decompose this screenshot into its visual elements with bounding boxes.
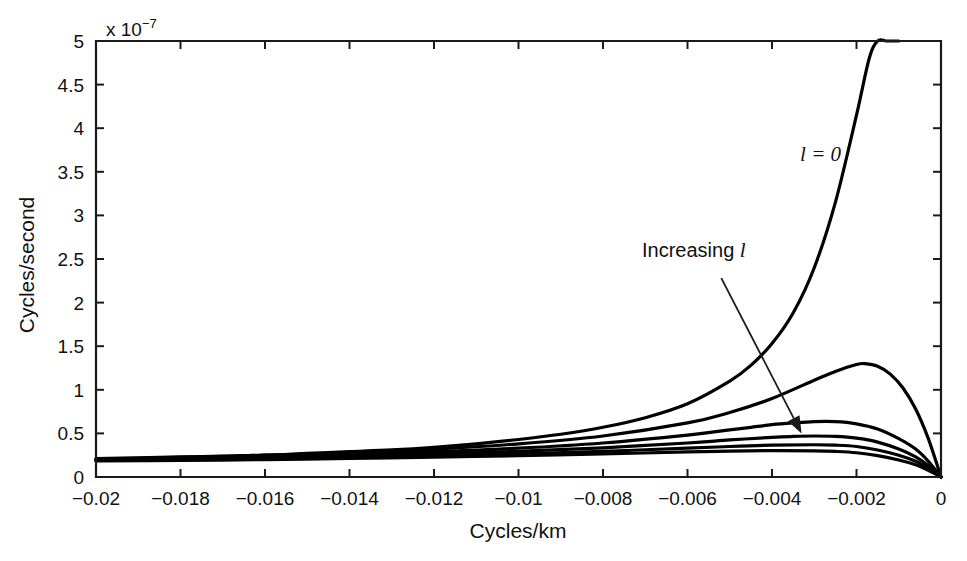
- figure-container: −0.02−0.018−0.016−0.014−0.012−0.01−0.008…: [0, 0, 967, 561]
- x-tick-label: −0.008: [574, 488, 633, 509]
- y-tick-label: 1: [73, 380, 84, 401]
- y-tick-label: 4: [73, 118, 84, 139]
- x-tick-label: −0.002: [827, 488, 886, 509]
- x-tick-label: −0.02: [72, 488, 120, 509]
- increasing-l-arrow-shaft: [721, 278, 793, 418]
- y-tick-label: 0: [73, 467, 84, 488]
- x-tick-label: −0.006: [658, 488, 717, 509]
- x-tick-label: −0.018: [151, 488, 210, 509]
- y-tick-label: 3: [73, 205, 84, 226]
- y-tick-label: 5: [73, 31, 84, 52]
- y-tick-label: 0.5: [58, 423, 84, 444]
- x-tick-label: −0.014: [320, 488, 379, 509]
- y-tick-label: 2.5: [58, 249, 84, 270]
- x-tick-label: −0.012: [405, 488, 464, 509]
- curve-series-2: [96, 421, 941, 477]
- curve-label-l-zero: l = 0: [800, 142, 842, 166]
- x-tick-label: −0.01: [494, 488, 542, 509]
- x-tick-label: 0: [936, 488, 947, 509]
- y-tick-label: 4.5: [58, 75, 84, 96]
- x-axis-label: Cycles/km: [470, 519, 567, 542]
- chart-canvas: −0.02−0.018−0.016−0.014−0.012−0.01−0.008…: [0, 0, 967, 561]
- plot-frame: [96, 41, 941, 477]
- increasing-l-label: Increasing l: [642, 238, 746, 262]
- x-axis-ticks: [96, 41, 941, 477]
- y-tick-label: 2: [73, 293, 84, 314]
- y-axis-label: Cycles/second: [15, 197, 38, 334]
- y-axis-exponent-label: x 10−7: [106, 16, 157, 40]
- x-tick-label: −0.004: [743, 488, 802, 509]
- y-axis-ticks: [96, 41, 941, 477]
- y-axis-tick-labels: 00.511.522.533.544.55: [58, 31, 85, 488]
- data-curves: [96, 40, 941, 477]
- x-tick-label: −0.016: [236, 488, 295, 509]
- y-tick-label: 1.5: [58, 336, 84, 357]
- y-tick-label: 3.5: [58, 162, 84, 183]
- x-axis-tick-labels: −0.02−0.018−0.016−0.014−0.012−0.01−0.008…: [72, 488, 946, 509]
